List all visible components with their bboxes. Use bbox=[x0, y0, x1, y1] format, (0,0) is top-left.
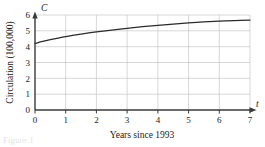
x-tick-label-4: 4 bbox=[156, 115, 161, 125]
x-tick-label-0: 0 bbox=[33, 115, 38, 125]
figure-container: 0 1 2 3 4 5 6 7 0 1 2 3 4 5 6 C t Circul… bbox=[0, 0, 265, 147]
x-axis-title: Years since 1993 bbox=[110, 130, 175, 140]
y-tick-label-1: 1 bbox=[26, 89, 31, 99]
x-tick-label-3: 3 bbox=[125, 115, 130, 125]
figure-caption-fragment: Figure 1 bbox=[3, 136, 34, 145]
circulation-line-chart: 0 1 2 3 4 5 6 7 0 1 2 3 4 5 6 C t Circul… bbox=[0, 0, 265, 147]
x-tick-label-2: 2 bbox=[94, 115, 99, 125]
y-tick-label-3: 3 bbox=[26, 58, 31, 68]
x-axis-symbol-label: t bbox=[256, 99, 259, 109]
y-tick-label-4: 4 bbox=[26, 42, 31, 52]
y-tick-label-0: 0 bbox=[26, 105, 31, 115]
x-tick-label-6: 6 bbox=[217, 115, 222, 125]
y-tick-label-6: 6 bbox=[26, 10, 31, 20]
y-tick-label-5: 5 bbox=[26, 26, 31, 36]
x-tick-label-7: 7 bbox=[248, 115, 253, 125]
y-axis-title: Circulation (100,000) bbox=[5, 21, 16, 103]
y-axis-symbol-label: C bbox=[41, 3, 48, 13]
y-tick-label-2: 2 bbox=[26, 74, 31, 84]
x-tick-label-1: 1 bbox=[63, 115, 68, 125]
x-tick-label-5: 5 bbox=[186, 115, 191, 125]
